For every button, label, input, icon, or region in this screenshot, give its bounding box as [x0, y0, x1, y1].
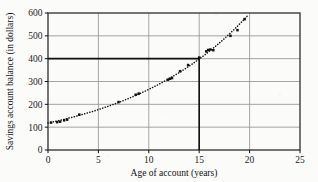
x-tick-label: 20	[245, 155, 255, 165]
data-point	[198, 56, 201, 59]
data-point	[236, 29, 239, 32]
savings-balance-scatter-chart: 0510152025 0100200300400500600 Age of ac…	[0, 0, 318, 182]
y-tick-label: 100	[28, 123, 43, 133]
data-point	[187, 64, 190, 66]
data-point	[78, 113, 81, 116]
data-point	[59, 120, 62, 123]
y-tick-label: 200	[28, 100, 43, 110]
y-axis-tick-labels: 0100200300400500600	[28, 8, 43, 155]
data-point	[243, 18, 246, 21]
data-point	[229, 35, 232, 38]
data-point	[63, 119, 66, 122]
data-point	[171, 77, 174, 80]
x-tick-label: 25	[295, 155, 305, 165]
y-tick-label: 500	[28, 31, 43, 41]
data-point	[137, 92, 140, 95]
axis-tick-marks	[45, 13, 300, 153]
trend-curve	[48, 16, 248, 123]
horizontal-gridlines	[48, 36, 300, 127]
data-point	[209, 48, 212, 51]
data-point	[56, 121, 59, 124]
y-tick-label: 600	[28, 8, 43, 18]
data-point	[179, 70, 182, 73]
x-tick-label: 5	[96, 155, 101, 165]
y-axis-title: Savings account balance (in dollars)	[5, 13, 16, 151]
y-tick-label: 0	[38, 145, 43, 155]
chart-figure: 0510152025 0100200300400500600 Age of ac…	[0, 0, 318, 182]
data-point	[117, 101, 120, 104]
y-tick-label: 300	[28, 77, 43, 87]
x-tick-label: 0	[46, 155, 51, 165]
x-axis-title: Age of account (years)	[131, 168, 218, 179]
x-axis-tick-labels: 0510152025	[46, 155, 305, 165]
x-tick-label: 15	[194, 155, 204, 165]
data-point	[212, 49, 215, 52]
x-tick-label: 10	[144, 155, 154, 165]
data-point	[66, 118, 69, 121]
data-point-markers	[50, 18, 246, 124]
data-point	[50, 121, 53, 124]
data-point	[134, 93, 137, 96]
y-tick-label: 400	[28, 54, 43, 64]
